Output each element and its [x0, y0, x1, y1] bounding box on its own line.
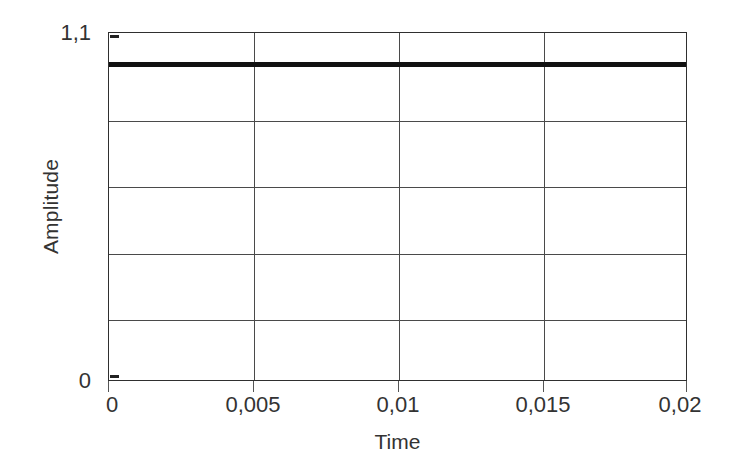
x-tick-label: 0,015 [515, 394, 570, 416]
y-tick-mark-top [110, 35, 119, 38]
x-tick-mark [108, 381, 109, 392]
x-axis-tick-labels: 0 0,005 0,01 0,015 0,02 [108, 394, 687, 424]
gridline-horizontal [109, 320, 686, 321]
chart-figure: Amplitude 1,1 0 0 0,005 0,01 0,015 0 [0, 0, 731, 475]
x-tick-label: 0,005 [225, 394, 280, 416]
y-tick-label-top: 1,1 [0, 22, 100, 44]
x-tick-mark [253, 381, 254, 392]
gridline-vertical [399, 33, 400, 380]
x-tick-mark [543, 381, 544, 392]
gridline-vertical [544, 33, 545, 380]
x-tick-mark [686, 381, 687, 392]
plot-area [108, 32, 687, 381]
x-tick-label: 0 [106, 394, 118, 416]
x-tick-label: 0,02 [659, 394, 702, 416]
gridline-horizontal [109, 121, 686, 122]
y-tick-mark-bottom [110, 375, 119, 378]
gridline-horizontal [109, 254, 686, 255]
x-tick-label: 0,01 [377, 394, 420, 416]
x-tick-mark [398, 381, 399, 392]
data-series-line [109, 62, 686, 67]
gridline-vertical [254, 33, 255, 380]
gridline-horizontal [109, 187, 686, 188]
x-axis-title: Time [108, 430, 687, 454]
y-tick-label-bottom: 0 [0, 370, 100, 392]
y-axis-tick-labels: 1,1 0 [0, 0, 100, 475]
